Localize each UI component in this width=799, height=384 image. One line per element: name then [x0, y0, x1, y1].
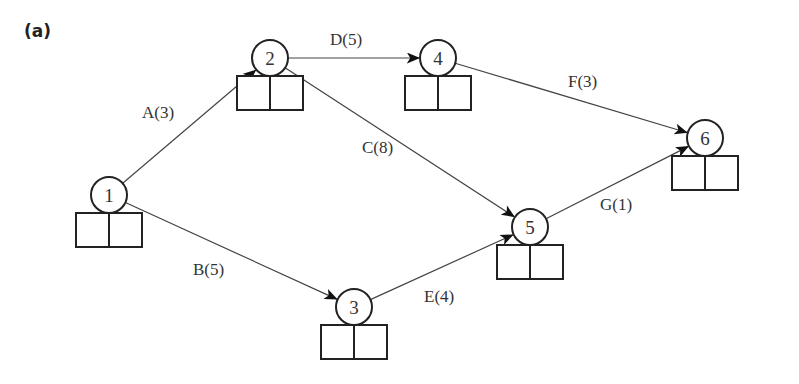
node-3: 3	[321, 289, 387, 359]
network-diagram: (a) 123456 A(3)B(5)C(8)D(5)E(4)F(3)G(1)	[0, 0, 799, 384]
node-2: 2	[237, 40, 303, 110]
node-5: 5	[497, 209, 563, 279]
edge-c-arrow	[285, 68, 514, 217]
node-3-number: 3	[349, 297, 359, 318]
edge-a-arrow	[123, 70, 256, 183]
panel-label: (a)	[24, 21, 51, 41]
node-1-number: 1	[104, 185, 114, 206]
node-4-number: 4	[433, 48, 443, 69]
edge-label-a: A(3)	[142, 103, 174, 122]
edge-label-c: C(8)	[362, 138, 393, 157]
node-2-number: 2	[265, 48, 275, 69]
node-5-number: 5	[525, 217, 535, 238]
node-1: 1	[76, 177, 142, 247]
edge-label-g: G(1)	[600, 195, 632, 214]
edge-label-e: E(4)	[424, 287, 454, 306]
nodes-layer: 123456	[76, 40, 738, 359]
edge-label-f: F(3)	[568, 72, 597, 91]
edge-label-d: D(5)	[330, 30, 362, 49]
node-6-number: 6	[700, 128, 710, 149]
node-4: 4	[405, 40, 471, 110]
edge-b-arrow	[125, 203, 336, 300]
edge-label-b: B(5)	[193, 260, 224, 279]
